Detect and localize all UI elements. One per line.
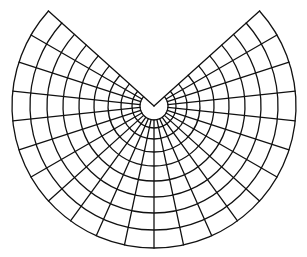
map-projection-graticule: [0, 0, 307, 257]
meridian-line: [96, 119, 148, 236]
meridians: [13, 35, 295, 248]
meridian-line: [13, 107, 140, 120]
meridian-line: [160, 119, 212, 236]
graticule-svg: [0, 0, 307, 257]
meridian-line: [124, 120, 151, 245]
meridian-line: [157, 120, 184, 245]
meridian-line: [168, 107, 295, 120]
inner-parallel: [140, 97, 168, 120]
meridian-line: [13, 91, 140, 104]
meridian-line: [168, 91, 295, 104]
